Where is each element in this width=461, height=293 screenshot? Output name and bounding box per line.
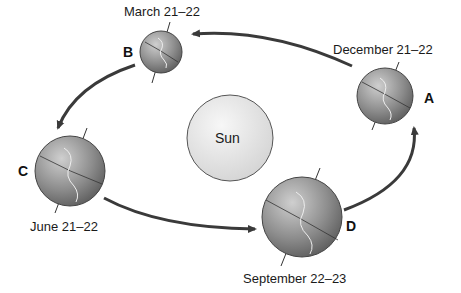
position-letter-d: D — [346, 218, 356, 234]
position-letter-a: A — [424, 90, 434, 106]
date-label-a: December 21–22 — [333, 42, 433, 57]
orbit-arrow-a-to-b — [193, 33, 352, 66]
sun-label: Sun — [215, 130, 240, 146]
date-label-c: June 21–22 — [30, 219, 98, 234]
date-label-b: March 21–22 — [124, 4, 200, 19]
position-letter-c: C — [18, 163, 28, 179]
date-label-d: September 22–23 — [243, 271, 346, 286]
earth-d — [262, 168, 342, 266]
earth-a — [357, 62, 413, 130]
orbit-arrow-b-to-c — [58, 65, 135, 128]
earth-c — [35, 128, 105, 213]
earth-b — [140, 22, 182, 83]
orbit-arrow-d-to-a — [344, 128, 414, 210]
orbit-arrow-c-to-d — [104, 198, 255, 229]
position-letter-b: B — [123, 44, 133, 60]
